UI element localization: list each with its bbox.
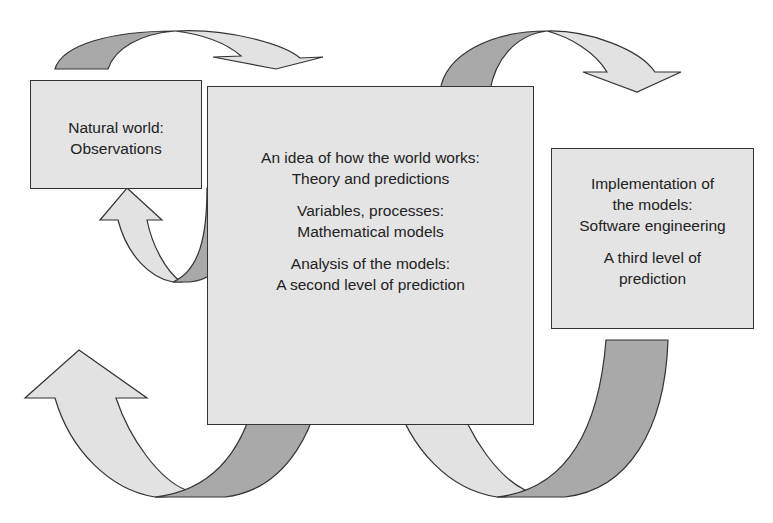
box-text-line: Software engineering [579, 215, 726, 236]
arrow-body-light [25, 350, 186, 497]
box-implementation: Implementation of the models: Software e… [551, 148, 754, 329]
box-theory-and-models: An idea of how the world works: Theory a… [207, 86, 534, 425]
arrow-body-light [175, 31, 323, 69]
box-text-line: An idea of how the world works: [261, 147, 480, 168]
box-text-line: A second level of prediction [276, 274, 465, 295]
arrow-tail-dark [440, 31, 547, 91]
box-text-line: Observations [70, 138, 161, 159]
box-text-line: Natural world: [68, 117, 164, 138]
arrow-natural-to-theory [55, 31, 323, 69]
models-group: Variables, processes: Mathematical model… [297, 200, 444, 242]
box-text-line: Variables, processes: [297, 200, 444, 221]
third-level-group: A third level of prediction [604, 247, 701, 289]
arrow-body-light [547, 31, 681, 92]
theory-group: An idea of how the world works: Theory a… [261, 147, 480, 189]
box-text-line: Analysis of the models: [276, 253, 465, 274]
arrow-theory-to-implementation [440, 31, 681, 92]
box-text-line: prediction [604, 268, 701, 289]
box-natural-world: Natural world: Observations [30, 80, 202, 189]
box-text-line: the models: [579, 194, 726, 215]
box-text-line: Mathematical models [297, 221, 444, 242]
arrow-tail-dark [55, 31, 175, 69]
implementation-group: Implementation of the models: Software e… [579, 173, 726, 236]
box-text-line: Implementation of [579, 173, 726, 194]
arrow-body-light [100, 188, 181, 282]
box-text-line: A third level of [604, 247, 701, 268]
box-text-line: Theory and predictions [261, 168, 480, 189]
analysis-group: Analysis of the models: A second level o… [276, 253, 465, 295]
